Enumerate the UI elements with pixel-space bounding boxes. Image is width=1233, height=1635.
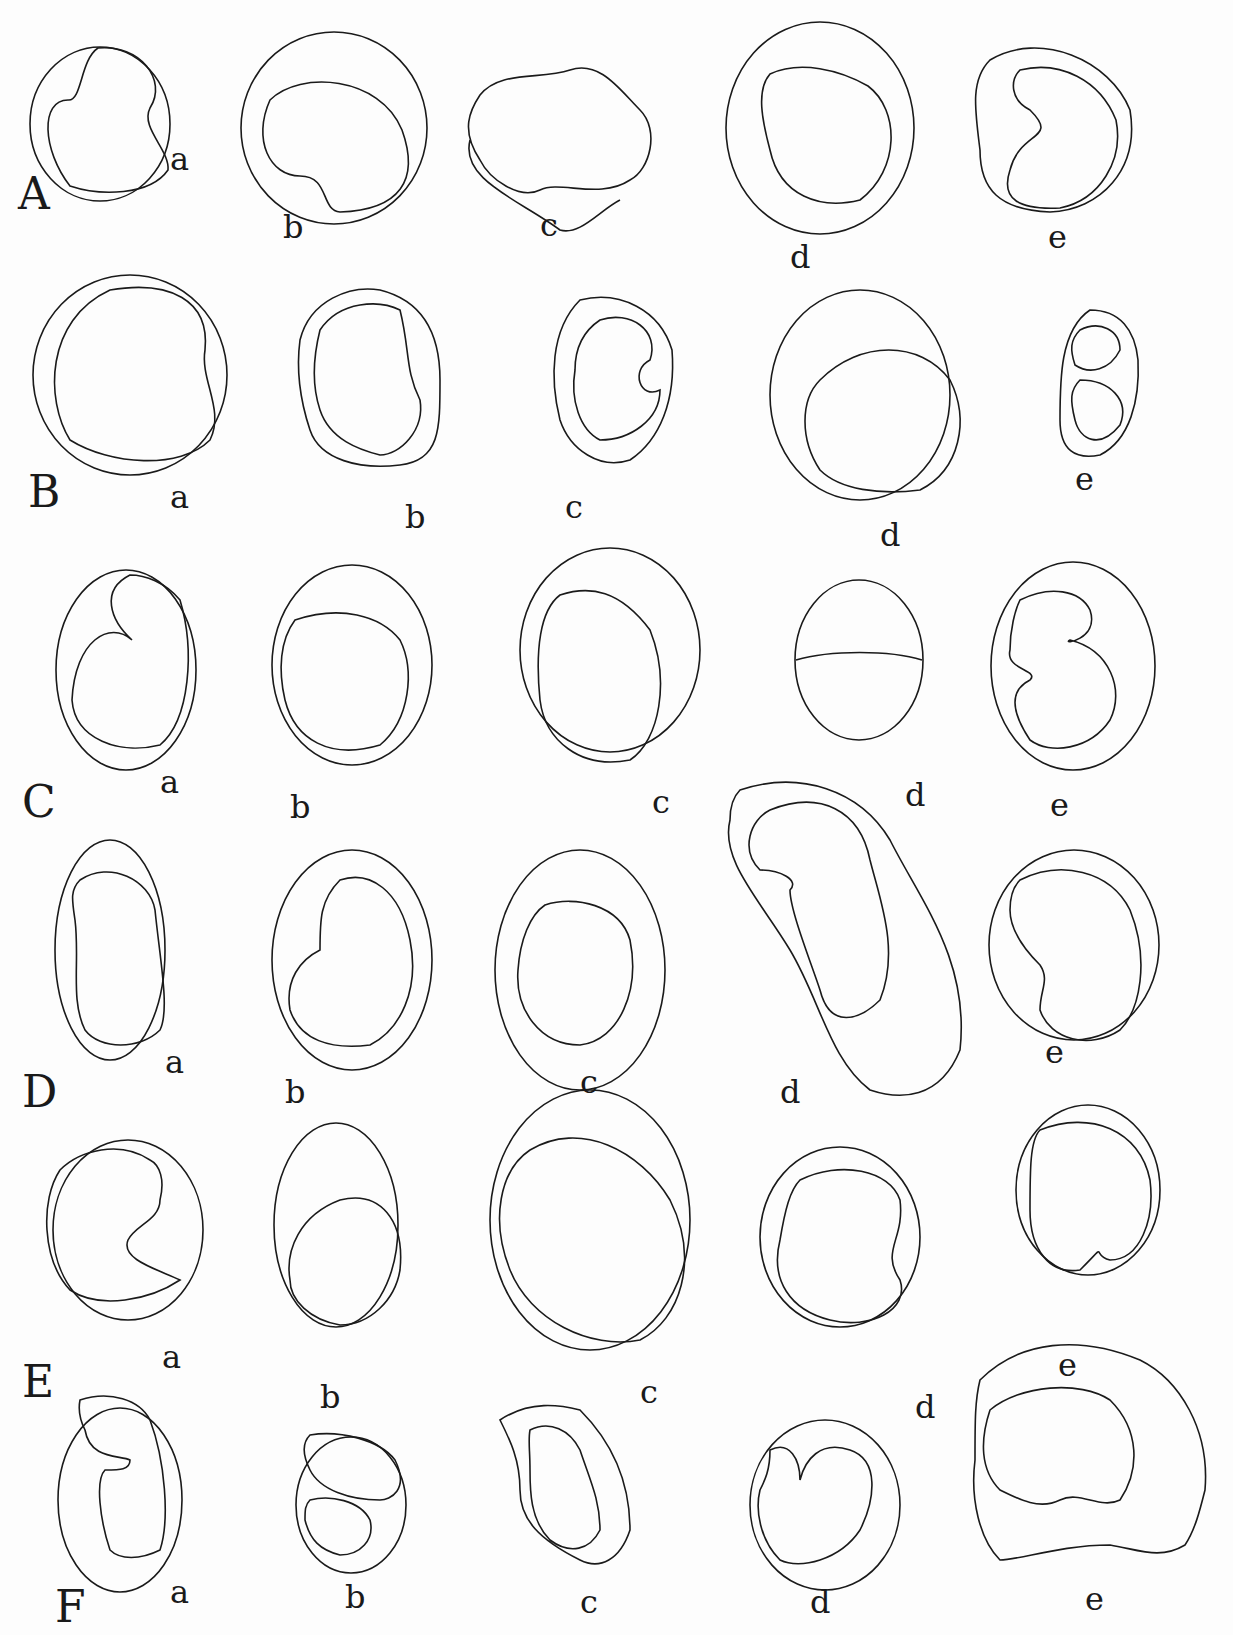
cell-Eb	[274, 1123, 401, 1327]
cell-nucleus-outline	[1010, 591, 1116, 748]
cell-nucleus-outline	[281, 613, 408, 750]
cell-Ea	[47, 1140, 203, 1320]
cell-nucleus-outline	[263, 82, 409, 212]
cell-label-Ce: e	[1050, 786, 1069, 824]
cell-nucleus-outline	[73, 872, 165, 1045]
cell-nucleus-outline	[1060, 310, 1138, 456]
cell-nucleus-outline	[289, 878, 413, 1047]
cell-membrane-outline	[989, 850, 1159, 1040]
cell-label-Cb: b	[290, 788, 310, 826]
cell-membrane-outline	[58, 1408, 182, 1592]
cell-Dc	[495, 850, 665, 1090]
cell-nucleus-outline	[538, 591, 660, 762]
cell-nucleus-outline	[298, 289, 440, 466]
cell-label-Bd: d	[880, 516, 900, 554]
cell-nucleus-outline	[468, 68, 650, 231]
cell-Ed	[760, 1147, 920, 1327]
cell-membrane-outline	[490, 1090, 690, 1350]
cell-nucleus-outline	[1010, 870, 1141, 1040]
cell-membrane-outline	[795, 580, 923, 740]
cell-nucleus-outline	[55, 288, 215, 461]
cell-label-De: e	[1045, 1033, 1064, 1071]
cell-Ec	[490, 1090, 690, 1350]
cell-label-Eb: b	[320, 1378, 340, 1416]
cell-nucleus-outline	[1030, 1122, 1151, 1270]
cell-label-Ca: a	[160, 763, 179, 801]
cell-membrane-outline	[272, 850, 432, 1070]
cell-membrane-outline	[55, 840, 165, 1060]
row-label-C: C	[22, 776, 56, 827]
cell-Ab	[241, 32, 427, 224]
cell-Cb	[272, 565, 432, 765]
cell-Bc	[554, 297, 673, 462]
cell-Ae	[976, 48, 1132, 212]
cell-Ad	[726, 22, 914, 234]
cell-Ce	[991, 562, 1155, 770]
cell-Fa	[58, 1396, 182, 1592]
cell-label-Db: b	[285, 1073, 305, 1111]
cell-nucleus-outline	[47, 1149, 180, 1301]
cell-nucleus-outline	[304, 1434, 400, 1555]
cell-Ee	[1016, 1105, 1160, 1275]
row-label-F: F	[55, 1581, 86, 1632]
cell-nucleus-outline	[518, 901, 633, 1045]
cell-Ac	[468, 68, 650, 231]
cell-label-Fc: c	[580, 1583, 598, 1621]
cell-Fb	[296, 1434, 406, 1573]
cell-label-Fa: a	[170, 1573, 189, 1611]
cell-membrane-outline	[33, 275, 227, 475]
cell-label-Bb: b	[405, 498, 425, 536]
cell-nucleus-outline	[72, 575, 188, 748]
cell-membrane-outline	[296, 1437, 406, 1573]
cell-membrane-outline	[520, 548, 700, 752]
cell-nucleus-outline	[974, 1345, 1206, 1560]
cell-label-Fb: b	[345, 1578, 365, 1616]
cell-label-Ed: d	[915, 1388, 935, 1426]
cell-Bb	[298, 289, 440, 466]
cell-membrane-outline	[750, 1420, 900, 1590]
cell-label-Bc: c	[565, 488, 583, 526]
cell-label-Fe: e	[1085, 1580, 1104, 1618]
cell-nucleus-outline	[728, 782, 961, 1095]
row-label-A: A	[18, 168, 50, 219]
cell-label-Ea: a	[162, 1338, 181, 1376]
cell-nucleus-outline	[796, 653, 922, 661]
row-label-D: D	[22, 1066, 57, 1117]
cell-label-Cc: c	[652, 783, 670, 821]
cell-nucleus-outline	[805, 350, 960, 492]
cell-nucleus-outline	[500, 1406, 630, 1564]
cell-Aa	[30, 47, 170, 201]
cell-Bd	[770, 290, 960, 500]
cell-nucleus-outline	[976, 48, 1132, 212]
cell-nucleus-outline	[289, 1198, 401, 1325]
cell-label-Dd: d	[780, 1073, 800, 1111]
cell-Dd	[728, 782, 961, 1095]
cell-nucleus-outline	[777, 1170, 901, 1323]
cell-Cc	[520, 548, 700, 762]
cell-membrane-outline	[770, 290, 950, 500]
cell-membrane-outline	[274, 1123, 398, 1327]
cell-nucleus-outline	[554, 297, 673, 462]
cell-label-Ad: d	[790, 238, 810, 276]
cell-label-Ec: c	[640, 1373, 658, 1411]
cell-label-Be: e	[1075, 460, 1094, 498]
cell-label-Dc: c	[580, 1063, 598, 1101]
cell-Cd	[795, 580, 923, 740]
cell-Fc	[500, 1406, 630, 1564]
cell-Da	[55, 840, 165, 1060]
cell-Ba	[33, 275, 227, 475]
cell-Fd	[750, 1420, 900, 1590]
cell-label-Da: a	[165, 1043, 184, 1081]
cell-Ca	[56, 570, 196, 770]
cell-label-Ab: b	[283, 208, 303, 246]
row-label-E: E	[22, 1356, 54, 1407]
cell-membrane-outline	[991, 562, 1155, 770]
cell-label-Aa: a	[170, 140, 189, 178]
cell-membrane-outline	[1016, 1105, 1160, 1275]
cell-label-Ee: e	[1058, 1346, 1077, 1384]
cell-label-Cd: d	[905, 776, 925, 814]
cell-De	[989, 850, 1159, 1040]
cell-nucleus-outline	[758, 1447, 872, 1563]
cell-Db	[272, 850, 432, 1070]
cell-label-Fd: d	[810, 1583, 830, 1621]
